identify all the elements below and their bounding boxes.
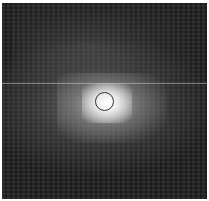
astronomical-image (2, 3, 207, 199)
circle-marker (95, 92, 114, 111)
scan-line-artifact (2, 83, 207, 84)
